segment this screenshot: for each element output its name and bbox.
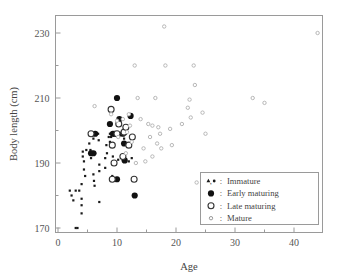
data-point xyxy=(121,117,124,120)
data-point xyxy=(123,138,125,140)
data-point xyxy=(109,113,112,116)
data-point xyxy=(82,151,84,153)
data-point xyxy=(107,121,113,127)
x-axis-title: Age xyxy=(180,261,198,272)
data-point xyxy=(70,194,72,196)
data-point xyxy=(108,136,110,138)
legend-separator: : xyxy=(220,176,222,186)
data-point xyxy=(151,155,154,158)
data-point xyxy=(133,64,136,67)
data-point xyxy=(104,157,106,159)
data-point xyxy=(81,198,83,200)
chart-svg: 010203040170190210230 Age Body length (c… xyxy=(0,0,340,277)
data-point xyxy=(186,106,189,109)
x-tick-label: 40 xyxy=(289,237,299,248)
data-point xyxy=(316,31,319,34)
legend-marker-comma: , xyxy=(210,176,212,186)
data-point xyxy=(189,116,192,119)
data-point xyxy=(116,135,119,138)
legend-separator: : xyxy=(220,213,222,223)
data-point xyxy=(144,160,147,163)
data-point xyxy=(75,190,77,192)
data-point xyxy=(147,122,150,125)
data-point xyxy=(111,160,117,166)
data-point xyxy=(148,135,151,138)
data-point xyxy=(136,96,139,99)
data-point xyxy=(142,147,145,150)
data-point xyxy=(131,157,133,159)
y-axis-title: Body length (cm) xyxy=(8,86,20,161)
legend-separator: : xyxy=(220,188,222,198)
data-point xyxy=(92,138,94,140)
data-point xyxy=(134,161,137,164)
series-immature xyxy=(69,133,133,229)
data-point xyxy=(195,181,198,184)
data-point xyxy=(130,140,133,143)
chart-legend: ,:Immature:Early maturing:Late maturing:… xyxy=(201,173,319,225)
data-point xyxy=(163,25,166,28)
scatter-plot-figure: 010203040170190210230 Age Body length (c… xyxy=(0,0,340,277)
data-point xyxy=(129,134,135,140)
data-point xyxy=(115,119,118,122)
data-point xyxy=(81,204,83,206)
data-point xyxy=(84,175,86,177)
data-point xyxy=(201,111,204,114)
legend-marker-filled-circle xyxy=(208,190,214,196)
data-point xyxy=(192,64,195,67)
legend-marker-dot xyxy=(213,180,216,183)
data-point xyxy=(98,201,100,203)
data-point xyxy=(139,117,142,120)
data-point xyxy=(125,130,128,133)
data-point xyxy=(251,96,254,99)
data-point xyxy=(81,212,83,214)
data-point xyxy=(168,127,171,130)
data-point xyxy=(90,150,96,156)
data-point xyxy=(105,144,107,146)
data-point xyxy=(170,143,173,146)
data-point xyxy=(92,173,94,175)
legend-label: Immature xyxy=(227,176,261,186)
data-point xyxy=(108,106,114,112)
legend-label: Early maturing xyxy=(227,188,279,198)
data-point xyxy=(83,168,85,170)
y-tick-label: 190 xyxy=(35,158,50,169)
y-tick-label: 210 xyxy=(35,93,50,104)
data-point xyxy=(117,159,119,161)
data-point xyxy=(98,164,100,166)
data-point xyxy=(164,64,167,67)
data-point xyxy=(157,126,160,129)
data-point xyxy=(83,160,85,162)
data-point xyxy=(76,227,78,229)
data-point xyxy=(81,183,83,185)
data-point xyxy=(158,132,161,135)
data-point xyxy=(104,167,106,169)
data-point xyxy=(160,147,163,150)
data-point xyxy=(93,180,95,182)
data-point xyxy=(85,149,87,151)
data-point xyxy=(88,142,90,144)
data-point xyxy=(124,152,127,155)
y-tick-label: 230 xyxy=(35,28,50,39)
legend-marker-open-circle xyxy=(208,203,214,209)
series-mature xyxy=(93,25,319,188)
data-point xyxy=(131,176,137,182)
data-point xyxy=(93,104,96,107)
legend-marker-small-open-circle xyxy=(209,217,212,220)
data-point xyxy=(128,124,131,127)
data-point xyxy=(127,113,130,116)
data-point xyxy=(263,101,266,104)
data-point xyxy=(109,142,115,148)
data-point xyxy=(204,132,207,135)
data-point xyxy=(82,155,84,157)
data-point xyxy=(78,190,80,192)
data-point xyxy=(106,152,108,154)
x-tick-label: 30 xyxy=(230,237,240,248)
legend-label: Mature xyxy=(227,213,252,223)
data-point xyxy=(128,160,130,162)
data-point xyxy=(72,199,74,201)
x-tick-label: 20 xyxy=(171,237,181,248)
data-point xyxy=(88,131,94,137)
data-point xyxy=(154,96,157,99)
data-point xyxy=(98,170,100,172)
x-tick-label: 0 xyxy=(56,237,61,248)
